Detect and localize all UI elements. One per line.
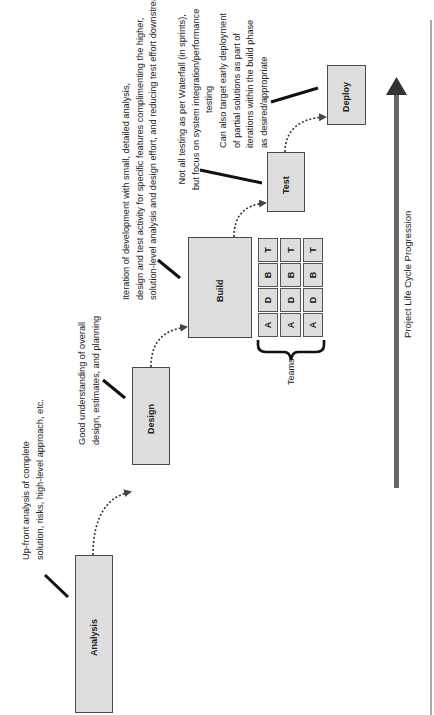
phase-deploy-label: Deploy	[341, 82, 351, 112]
team1-t: T	[258, 238, 278, 262]
team1-b: B	[258, 263, 278, 287]
team3-d: D	[303, 288, 323, 312]
team3-b: B	[303, 263, 323, 287]
phase-design-label: Design	[146, 404, 156, 434]
team1-d: D	[258, 288, 278, 312]
team3-a: A	[303, 313, 323, 337]
axis-label: Project Life Cycle Progression	[401, 211, 415, 338]
progression-arrow-head	[386, 77, 407, 95]
note-deploy: Can also target early deployment of part…	[217, 13, 271, 148]
phase-build-label: Build	[215, 280, 225, 303]
phase-analysis-box: Analysis	[75, 555, 113, 713]
phase-deploy-box: Deploy	[327, 65, 366, 125]
connector-design-build	[151, 327, 186, 367]
teams-label: Teams	[285, 358, 299, 385]
phase-design-box: Design	[132, 367, 170, 465]
connector-analysis-design	[93, 492, 130, 555]
note-build: Iteration of development with small, det…	[120, 0, 161, 300]
lifecycle-diagram: Analysis Design Build Test Deploy T B D …	[0, 0, 434, 715]
team1-a: A	[258, 313, 278, 337]
leader-build	[158, 260, 180, 278]
leader-deploy	[271, 88, 318, 102]
connector-build-test	[234, 203, 265, 237]
team3-t: T	[303, 238, 323, 262]
team2-b: B	[280, 263, 301, 287]
note-design: Good understanding of overall design, es…	[76, 316, 103, 445]
note-test: Not all testing as per Waterfall (in spr…	[176, 9, 217, 190]
phase-analysis-label: Analysis	[89, 619, 99, 656]
note-analysis: Up-front analysis of complete solution, …	[20, 399, 47, 560]
connector-test-deploy	[285, 117, 325, 152]
leader-design	[103, 380, 125, 398]
leader-analysis	[45, 575, 68, 597]
team2-t: T	[280, 238, 301, 262]
team2-a: A	[280, 313, 301, 337]
team2-d: D	[280, 288, 301, 312]
progression-arrow-shaft	[394, 92, 399, 488]
phase-test-label: Test	[281, 176, 291, 194]
phase-test-box: Test	[267, 152, 305, 212]
teams-brace	[258, 340, 324, 360]
phase-build-box: Build	[188, 237, 252, 338]
